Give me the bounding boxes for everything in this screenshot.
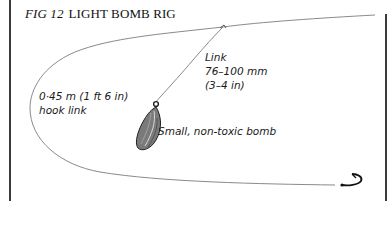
hook-link-label: 0·45 m (1 ft 6 in) hook link xyxy=(39,89,128,117)
bomb-label: Small, non-toxic bomb xyxy=(158,124,276,138)
hook-icon xyxy=(340,174,361,187)
bomb-weight-icon xyxy=(136,107,160,150)
bomb-eye-icon xyxy=(154,102,159,107)
link-label: Link 76–100 mm (3–4 in) xyxy=(205,50,267,92)
